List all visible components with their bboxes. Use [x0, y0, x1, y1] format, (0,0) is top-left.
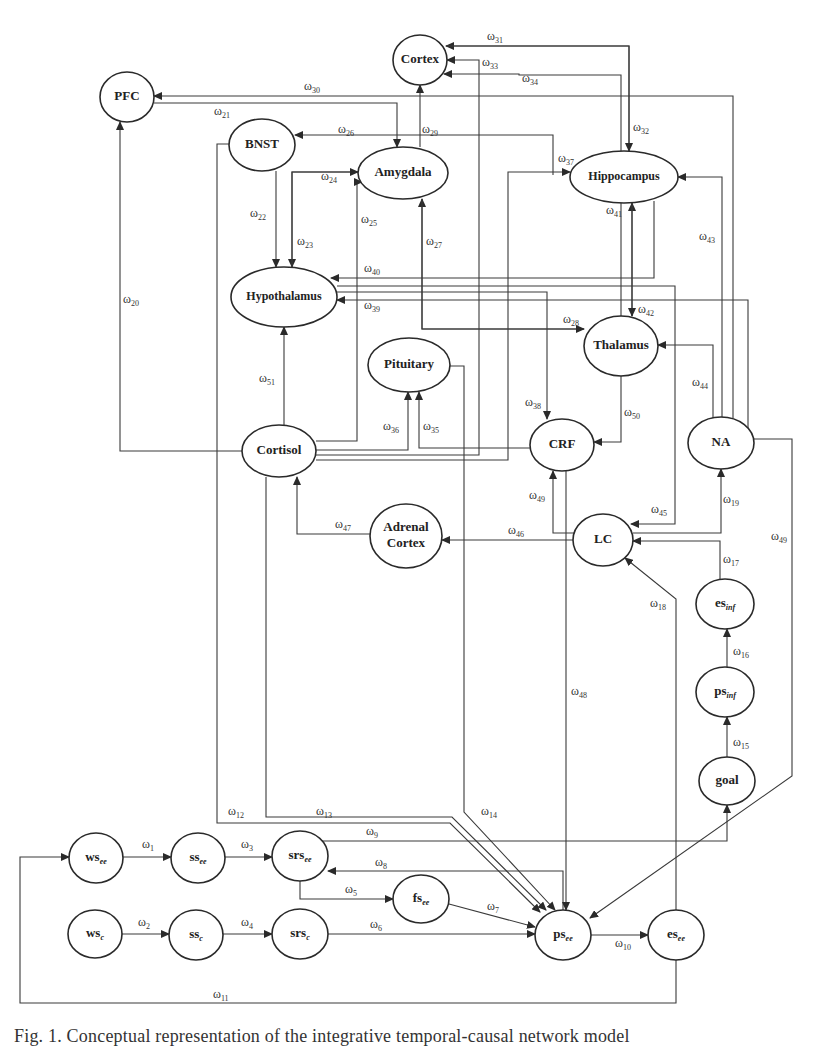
weight-label-w6: ω6: [370, 917, 382, 933]
weight-label-w21: ω21: [214, 104, 230, 120]
weight-label-w32: ω32: [633, 120, 649, 136]
weight-label-w1: ω1: [142, 837, 154, 853]
edge-na-to-ps_ee: [590, 439, 792, 918]
weight-label-w20: ω20: [123, 292, 139, 308]
node-label: goal: [715, 772, 739, 787]
node-label: BNST: [245, 136, 279, 151]
weight-label-w31: ω31: [487, 29, 503, 45]
weight-label-w36: ω36: [383, 419, 399, 435]
node-thalamus: Thalamus: [584, 316, 658, 376]
edge-cortisol-to-hippocampus: [316, 172, 570, 460]
weight-label-w10: ω10: [615, 936, 631, 952]
weight-label-w11: ω11: [213, 987, 229, 1003]
node-label: Cortex: [401, 51, 440, 66]
weight-label-w49: ω49: [771, 529, 787, 545]
edge-thalamus-to-crf: [594, 376, 621, 442]
weight-label-w17: ω17: [723, 552, 739, 568]
edge-hypothalamus-to-amygdala: [292, 172, 358, 267]
node-ss_c: ssc: [169, 910, 223, 960]
node-ws_ee: wsee: [69, 833, 123, 883]
weight-label-w25: ω25: [361, 212, 377, 228]
node-ws_c: wsc: [68, 910, 122, 958]
weight-label-w19: ω19: [723, 492, 739, 508]
node-hypothalamus: Hypothalamus: [231, 267, 337, 327]
node-lc: LC: [573, 514, 633, 566]
weight-label-w34: ω34: [522, 71, 538, 87]
edge-lc-to-na: [633, 469, 721, 533]
node-ps_inf: psinf: [696, 667, 754, 717]
weight-label-w3: ω3: [241, 837, 253, 853]
node-srs_c: srsc: [272, 909, 328, 959]
node-fs_ee: fsee: [393, 875, 449, 923]
weight-label-w24: ω24: [321, 169, 337, 185]
edge-es_ee-to-lc: [625, 558, 676, 910]
node-label: Thalamus: [593, 337, 649, 352]
node-label: Hippocampus: [588, 169, 660, 183]
weight-label-w40: ω40: [364, 261, 380, 277]
weight-label-w35: ω35: [423, 419, 439, 435]
weight-label-w18: ω18: [650, 596, 666, 612]
weight-label-w43: ω43: [699, 229, 715, 245]
weight-label-w9: ω9: [366, 824, 378, 840]
node-ss_ee: ssee: [171, 833, 225, 883]
weight-label-w4: ω4: [241, 915, 253, 931]
node-amygdala: Amygdala: [358, 147, 448, 199]
node-es_inf: esinf: [696, 579, 754, 629]
network-diagram: ω1ω2ω3ω4ω5ω6ω7ω8ω9ω10ω11ω12ω13ω14ω15ω16ω…: [0, 0, 827, 1048]
edge-amygdala-to-hypothalamus: [292, 172, 358, 267]
weight-label-w15: ω15: [733, 735, 749, 751]
weight-label-w51: ω51: [259, 371, 275, 387]
weight-label-w12: ω12: [228, 804, 244, 820]
weight-label-w8: ω8: [375, 855, 387, 871]
node-hippocampus: Hippocampus: [570, 151, 678, 203]
weight-label-w30: ω30: [304, 79, 320, 95]
weight-label-w42: ω42: [638, 302, 654, 318]
edge-lc-to-crf: [553, 471, 575, 533]
edge-amygdala-to-thalamus: [422, 199, 584, 329]
node-label: NA: [712, 434, 731, 449]
node-cortisol: Cortisol: [242, 425, 316, 477]
node-ps_ee: psee: [535, 910, 591, 960]
node-label: Cortisol: [257, 442, 302, 457]
node-goal: goal: [699, 757, 755, 805]
figure-caption: Fig. 1. Conceptual representation of the…: [14, 1026, 824, 1047]
edge-thalamus-to-amygdala: [422, 199, 584, 329]
weight-label-w23: ω23: [297, 234, 313, 250]
weight-label-w37: ω37: [558, 151, 574, 167]
weight-label-w50: ω50: [624, 405, 640, 421]
node-na: NA: [688, 417, 754, 469]
weight-label-w45: ω45: [651, 502, 667, 518]
node-adrenal: AdrenalCortex: [370, 504, 442, 568]
weight-label-w5: ω5: [345, 882, 357, 898]
weight-label-w2: ω2: [138, 915, 150, 931]
node-label: Cortex: [387, 535, 426, 550]
node-label: Amygdala: [374, 164, 432, 179]
node-label: Adrenal: [383, 519, 429, 534]
node-crf: CRF: [530, 419, 594, 471]
node-bnst: BNST: [229, 119, 295, 171]
weight-label-w38: ω38: [525, 395, 541, 411]
edge-crf-to-pituitary: [419, 392, 530, 448]
weight-label-w16: ω16: [733, 644, 749, 660]
edge-adrenal-to-cortisol: [297, 477, 370, 534]
weight-label-w29: ω29: [422, 122, 438, 138]
nodes-layer: CortexPFCBNSTAmygdalaHippocampusHypothal…: [68, 35, 755, 960]
node-label: Hypothalamus: [246, 289, 322, 303]
weight-label-w48: ω48: [571, 684, 587, 700]
node-label: Pituitary: [384, 356, 434, 371]
weight-label-w49: ω49: [529, 488, 545, 504]
weight-label-w14: ω14: [481, 804, 497, 820]
node-cortex: Cortex: [393, 35, 447, 85]
node-pituitary: Pituitary: [368, 338, 450, 392]
weight-label-w27: ω27: [426, 234, 442, 250]
weight-label-w22: ω22: [250, 206, 266, 222]
edge-cortisol-to-pfc: [120, 122, 242, 451]
node-pfc: PFC: [100, 72, 154, 122]
weight-label-w33: ω33: [482, 55, 498, 71]
weight-label-w44: ω44: [692, 375, 708, 391]
node-es_ee: esee: [648, 910, 704, 960]
edge-es_inf-to-lc: [633, 541, 720, 579]
weight-label-w26: ω26: [338, 122, 354, 138]
node-label: CRF: [549, 436, 576, 451]
node-srs_ee: srsee: [272, 831, 328, 881]
